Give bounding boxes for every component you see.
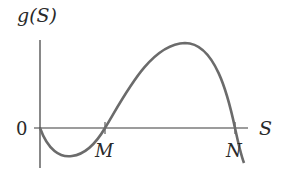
g-of-s-graph: g(S) S 0 M N	[0, 0, 291, 176]
point-m-label: M	[94, 140, 114, 161]
g-curve	[40, 43, 244, 163]
origin-label: 0	[16, 118, 27, 139]
point-n-label: N	[225, 140, 243, 161]
x-axis-label: S	[259, 117, 272, 139]
y-axis-label: g(S)	[17, 4, 57, 26]
